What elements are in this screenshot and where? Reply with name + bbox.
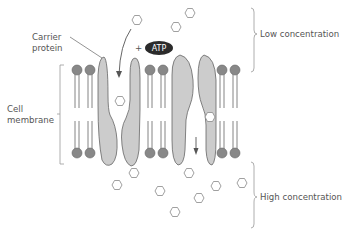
low-concentration-label: Low concentration [260,29,339,40]
molecule-hexagon [211,182,221,191]
carrier-protein-label: Carrier protein [32,32,63,53]
cell-membrane-label-line2: membrane [7,115,54,126]
carrier-protein-label-line1: Carrier [32,32,63,43]
molecule-hexagon [115,97,125,106]
high-concentration-label: High concentration [260,192,342,203]
molecule-hexagon [129,169,139,178]
phospholipid-group-left [72,65,95,158]
molecule-hexagon [185,9,195,18]
svg-text:ATP: ATP [152,44,167,53]
high-concentration-brace [251,162,257,228]
molecule-hexagon [155,187,165,196]
molecule-hexagon [112,181,122,190]
molecule-hexagon [132,16,142,25]
carrier-protein-label-line2: protein [32,43,63,54]
cell-membrane-label-line1: Cell [7,104,54,115]
molecule-hexagon [171,23,181,32]
molecule-hexagon [170,208,180,217]
molecule-hexagon [205,113,215,122]
entry-arrow [116,29,131,78]
atp-badge: ATP [145,41,173,55]
molecule-hexagon [184,169,194,178]
exit-arrow [194,137,199,155]
carrier-protein-pointer [70,37,102,58]
phospholipid-group-middle [145,65,168,158]
molecule-hexagon [237,179,247,188]
phospholipid-group-right [217,65,240,158]
cell-membrane-label: Cell membrane [7,104,54,125]
low-concentration-brace [251,8,257,72]
cell-membrane-bracket [57,65,64,164]
molecule-hexagon [194,194,204,203]
plus-sign: + [135,43,142,54]
